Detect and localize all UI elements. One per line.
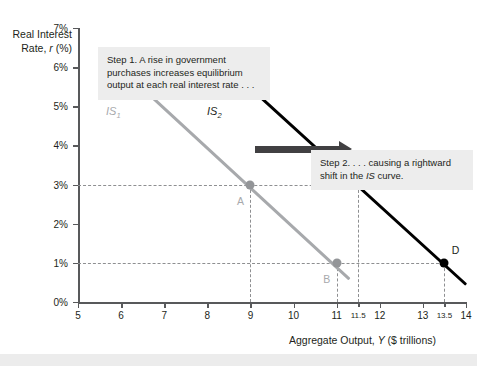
x-axis-title: Aggregate Output, Y ($ trillions) (255, 334, 470, 346)
callout-step-1: Step 1. A rise in government purchases i… (98, 47, 270, 100)
x-tick-mark (358, 303, 359, 307)
data-point-b (332, 258, 341, 267)
y-tick-label: 7% (34, 23, 68, 34)
x-tick-label: 10 (288, 310, 299, 321)
guide-line (250, 185, 251, 302)
curve-label-is1-subscript: 1 (116, 111, 120, 120)
x-tick-mark (250, 303, 251, 308)
guide-line (78, 263, 444, 264)
y-tick-label: 0% (34, 297, 68, 308)
economics-figure: Real Interest Rate, r (%) Aggregate Outp… (0, 0, 477, 366)
point-label-d: D (452, 244, 460, 256)
callout-step-2: Step 2. . . . causing a rightward shift … (311, 150, 473, 190)
x-tick-label: 13 (417, 310, 428, 321)
x-tick-mark (337, 303, 338, 308)
y-tick-label: 6% (34, 62, 68, 73)
guide-line (358, 185, 359, 302)
curve-label-is1: IS1 (106, 105, 121, 117)
x-tick-mark (207, 303, 208, 308)
x-tick-label: 6 (118, 310, 124, 321)
guide-line (444, 263, 445, 302)
x-tick-label: 9 (248, 310, 254, 321)
x-tick-label: 11 (331, 310, 341, 321)
y-tick-label: 5% (34, 101, 68, 112)
y-tick-label: 2% (34, 218, 68, 229)
curve-label-is2-subscript: 2 (217, 111, 221, 120)
curve-label-is2: IS2 (207, 105, 222, 117)
x-tick-mark (423, 303, 424, 308)
curve-label-is1-base: IS (106, 105, 116, 117)
curve-label-is2-base: IS (207, 105, 217, 117)
x-tick-label: 11.5 (351, 311, 366, 320)
y-tick-label: 1% (34, 257, 68, 268)
x-tick-label: 7 (161, 310, 167, 321)
x-tick-mark (78, 303, 79, 308)
point-label-b: B (323, 273, 330, 285)
x-tick-mark (380, 303, 381, 308)
bottom-band (0, 354, 477, 366)
x-tick-mark (164, 303, 165, 308)
x-tick-label: 13.5 (437, 311, 453, 320)
x-tick-label: 5 (75, 310, 81, 321)
x-tick-label: 8 (205, 310, 211, 321)
y-tick-label: 3% (34, 179, 68, 190)
x-tick-label: 12 (374, 310, 385, 321)
x-tick-mark (444, 303, 445, 307)
point-label-a: A (237, 195, 244, 207)
x-tick-mark (121, 303, 122, 308)
y-axis-title-line2: Rate, r (%) (0, 42, 72, 56)
x-tick-mark (294, 303, 295, 308)
y-tick-label: 4% (34, 140, 68, 151)
x-tick-label: 14 (460, 310, 471, 321)
data-point-a (246, 180, 255, 189)
data-point-d (440, 258, 449, 267)
x-tick-mark (466, 303, 467, 308)
x-axis-line (78, 302, 467, 304)
